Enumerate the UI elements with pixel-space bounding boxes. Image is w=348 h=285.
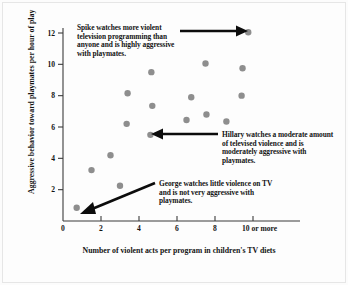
y-tick-label: 8	[39, 91, 55, 100]
x-axis-ticks	[101, 216, 253, 221]
x-tick-label: 4	[119, 224, 159, 233]
data-point-spike	[245, 29, 251, 35]
annotation-hillary: Hillary watches a moderate amount of tel…	[222, 131, 338, 165]
x-tick-label: 8	[195, 224, 235, 233]
y-tick-label: 4	[39, 154, 55, 163]
data-point	[149, 103, 155, 109]
data-point	[202, 60, 208, 66]
x-tick-label: 2	[81, 224, 121, 233]
data-point	[123, 121, 129, 127]
scatter-plot-figure: Spike watches more violent television pr…	[0, 0, 348, 285]
data-point-hillary	[147, 132, 153, 138]
data-point	[183, 117, 189, 123]
y-tick-label: 12	[39, 29, 55, 38]
data-point	[88, 167, 94, 173]
data-point	[238, 92, 244, 98]
data-point-george	[73, 204, 79, 210]
x-tick-label: 10 or more	[242, 224, 302, 233]
x-axis-title: Number of violent acts per program in ch…	[54, 246, 304, 256]
x-tick-label: 6	[157, 224, 197, 233]
hillary-arrow-head	[151, 129, 163, 140]
annotation-spike: Spike watches more violent television pr…	[77, 24, 189, 58]
data-point	[148, 69, 154, 75]
george-arrow-line	[92, 183, 155, 209]
data-point	[188, 94, 194, 100]
annotation-george: George watches little violence on TV and…	[159, 180, 283, 206]
data-point	[117, 183, 123, 189]
data-point	[203, 111, 209, 117]
x-tick-label: 0	[43, 224, 83, 233]
george-arrow-head	[80, 202, 96, 214]
spike-arrow-head	[236, 26, 248, 37]
y-axis-title: Aggressive behavior toward playmates per…	[27, 7, 37, 197]
data-point	[239, 65, 245, 71]
data-point	[124, 90, 130, 96]
data-point	[223, 118, 229, 124]
y-tick-label: 2	[39, 185, 55, 194]
y-tick-label: 6	[39, 123, 55, 132]
y-tick-label: 10	[39, 60, 55, 69]
y-axis-ticks	[58, 33, 63, 190]
data-point	[107, 152, 113, 158]
